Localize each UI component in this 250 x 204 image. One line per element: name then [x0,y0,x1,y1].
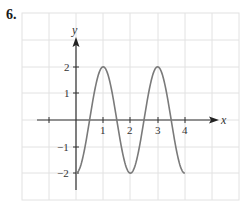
y-tick-label-1: 1 [64,87,70,99]
y-tick-label-neg2: −2 [57,167,69,179]
graph: x y 1 2 3 4 2 1 −1 −2 [0,0,250,204]
grid [22,13,239,200]
y-axis [73,37,80,190]
x-tick-label-2: 2 [127,124,133,136]
x-tick-label-3: 3 [155,124,161,136]
x-axis-label: x [220,113,227,127]
y-axis-label: y [71,23,78,37]
x-tick-label-4: 4 [182,124,188,136]
y-tick-label-2: 2 [64,61,70,73]
x-axis [37,117,219,124]
x-tick-label-1: 1 [100,124,106,136]
y-tick-label-neg1: −1 [57,141,69,153]
